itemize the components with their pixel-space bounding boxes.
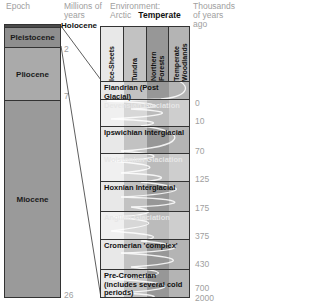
stage-pre-cromerian: Pre-Cromerian (includes several cold per… bbox=[101, 269, 189, 298]
stage-wolstonian: Wolstonian Glaciation bbox=[101, 153, 189, 181]
thousand-tick: 430 bbox=[195, 259, 209, 269]
thousand-tick: 375 bbox=[195, 231, 209, 241]
thousand-tick: 0 bbox=[195, 98, 200, 108]
thousand-tick: 125 bbox=[195, 174, 209, 184]
thousand-tick: 70 bbox=[195, 146, 204, 156]
stage-flandrian: Flandrian (Post Glacial) bbox=[101, 81, 189, 99]
thousand-tick: 2000 bbox=[195, 293, 214, 303]
stage-hoxnian: Hoxnian Interglacial bbox=[101, 181, 189, 211]
environment-chart: Ice-Sheets Tundra Northern Forests Tempe… bbox=[100, 26, 190, 298]
stage-devensian: Devensian Glaciation bbox=[101, 99, 189, 126]
stage-ipswichian: Ipswichian Interglacial bbox=[101, 126, 189, 153]
thousand-tick: 10 bbox=[195, 116, 204, 126]
thousand-tick: 175 bbox=[195, 203, 209, 213]
thousand-tick: 700 bbox=[195, 283, 209, 293]
stage-anglian: Anglian Glaciation bbox=[101, 211, 189, 239]
stage-cromerian: Cromerian 'complex' bbox=[101, 239, 189, 269]
